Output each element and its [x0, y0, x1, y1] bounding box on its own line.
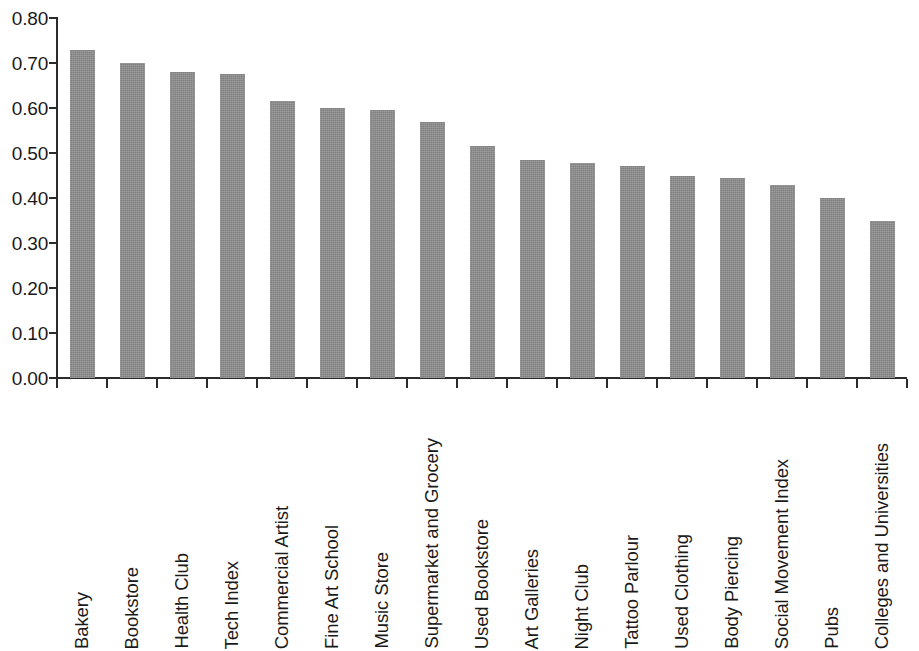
y-axis-tick: [49, 287, 57, 289]
x-axis-tick: [906, 379, 908, 388]
y-axis-tick-label: 0.60: [0, 99, 48, 118]
bar: [570, 163, 595, 378]
x-axis-tick: [706, 379, 708, 388]
x-axis-label-text: Used Clothing: [673, 534, 692, 649]
y-axis-tick-label: 0.80: [0, 9, 48, 28]
x-axis-tick: [556, 379, 558, 388]
x-axis-tick: [456, 379, 458, 388]
bar: [720, 178, 745, 378]
x-axis-tick: [256, 379, 258, 388]
bar: [270, 101, 295, 378]
x-axis-label-text: Fine Art School: [323, 525, 342, 649]
y-axis-tick-label: 0.40: [0, 189, 48, 208]
y-axis-tick-label: 0.70: [0, 54, 48, 73]
x-axis-tick: [856, 379, 858, 388]
x-axis-label-text: Supermarket and Grocery: [423, 438, 442, 649]
x-axis-tick: [306, 379, 308, 388]
bar: [320, 108, 345, 378]
y-axis-tick-label: 0.20: [0, 279, 48, 298]
y-axis-tick: [49, 17, 57, 19]
x-axis-label-text: Commercial Artist: [273, 506, 292, 649]
bar: [520, 160, 545, 378]
x-axis-tick: [656, 379, 658, 388]
bar: [120, 63, 145, 378]
x-axis-tick: [156, 379, 158, 388]
y-axis-tick: [49, 332, 57, 334]
x-axis-tick: [606, 379, 608, 388]
y-axis-tick: [49, 197, 57, 199]
y-axis-tick: [49, 62, 57, 64]
x-axis-tick: [56, 379, 58, 388]
bar: [770, 185, 795, 378]
bar: [370, 110, 395, 378]
bar: [820, 198, 845, 378]
x-axis-tick: [506, 379, 508, 388]
y-axis-tick-label: 0.30: [0, 234, 48, 253]
x-axis-tick: [106, 379, 108, 388]
y-axis-tick: [49, 242, 57, 244]
bar: [170, 72, 195, 378]
y-axis-tick: [49, 152, 57, 154]
x-axis-label-text: Night Club: [573, 564, 592, 649]
bar: [870, 221, 895, 378]
bar: [70, 50, 95, 379]
x-axis-tick: [406, 379, 408, 388]
x-axis-label-text: Used Bookstore: [473, 519, 492, 649]
x-axis-label-text: Body Piercing: [723, 536, 742, 649]
x-axis-tick: [356, 379, 358, 388]
x-axis-label-text: Social Movement Index: [773, 459, 792, 649]
x-axis-label-text: Tattoo Parlour: [623, 535, 642, 649]
bar: [670, 176, 695, 379]
x-axis-tick: [756, 379, 758, 388]
x-axis-label-text: Music Store: [373, 552, 392, 649]
y-axis-tick: [49, 107, 57, 109]
bar-chart: 0.800.700.600.500.400.300.200.100.00 Bak…: [0, 0, 919, 651]
bar: [470, 146, 495, 378]
bar: [420, 122, 445, 379]
x-axis-label-text: Health Club: [173, 553, 192, 649]
plot-area: [57, 18, 907, 378]
x-axis-label-text: Tech Index: [223, 561, 242, 649]
x-axis-label-text: Bakery: [73, 592, 92, 649]
x-axis-label-text: Pubs: [823, 607, 842, 649]
x-axis-label-text: Bookstore: [123, 567, 142, 649]
x-axis-tick: [206, 379, 208, 388]
y-axis-tick-label: 0.10: [0, 324, 48, 343]
x-axis-tick: [806, 379, 808, 388]
y-axis-tick-label: 0.00: [0, 369, 48, 388]
x-axis-label-text: Art Galleries: [523, 549, 542, 649]
y-axis-tick-label: 0.50: [0, 144, 48, 163]
x-axis-label-text: Colleges and Universities: [873, 443, 892, 649]
bar: [220, 74, 245, 378]
bar: [620, 166, 645, 378]
